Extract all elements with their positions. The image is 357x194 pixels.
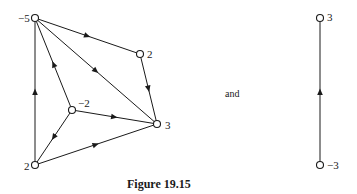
node-B [137,51,144,58]
figure-canvas [0,0,357,194]
node-label-T: 3 [327,12,333,23]
node-U [317,162,324,169]
arrowhead-icon [111,114,118,120]
node-label-D: 3 [165,120,171,131]
arrowhead-icon [317,89,323,95]
arrowhead-icon [52,61,57,68]
graph-nodes [32,15,324,169]
node-label-B: 2 [147,49,153,60]
node-D [154,121,161,128]
left-graph-edges [32,19,156,164]
node-C [69,107,76,114]
node-label-E: 2 [24,161,30,172]
node-T [317,15,324,22]
node-label-U: −3 [327,160,339,171]
node-label-C: −2 [78,98,90,109]
node-E [32,162,39,169]
arrowhead-icon [92,143,99,148]
figure-caption: Figure 19.15 [127,177,191,192]
right-graph-edges [317,22,323,162]
node-A [32,15,39,22]
arrowhead-icon [145,85,150,92]
arrowhead-icon [32,89,38,95]
arrowhead-icon [83,32,90,37]
and-connector-text: and [225,88,239,99]
node-label-A: −5 [18,13,30,24]
arrowhead-icon [52,133,58,140]
